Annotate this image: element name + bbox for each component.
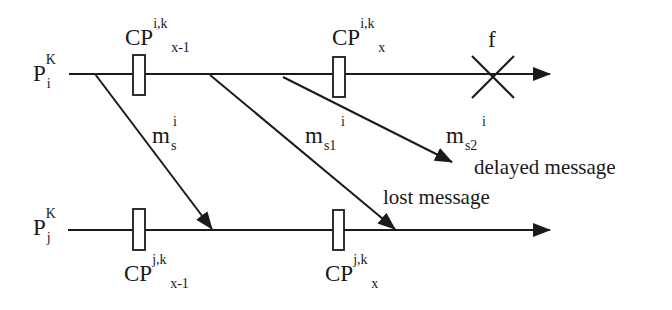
message-label-base: m	[305, 123, 323, 148]
checkpoint-label-scripts: j,kx-1	[152, 262, 189, 285]
failure-label: f	[488, 28, 496, 51]
message-label-scripts: is2	[464, 124, 477, 147]
checkpoint-label-sub: x-1	[153, 40, 190, 55]
checkpoint-label-base: CP	[325, 261, 353, 286]
checkpoint-label-sub: x	[353, 276, 378, 291]
message-label-scripts: is1	[323, 124, 336, 147]
process-label-pi-scripts: Ki	[46, 62, 51, 85]
message-label-base: m	[446, 123, 464, 148]
checkpoint-label-sub: x-1	[152, 276, 189, 291]
checkpoint-label-pi-x-1: CPi,kx-1	[125, 26, 190, 49]
message-arrow-ms1	[210, 75, 395, 229]
checkpoint-label-scripts: j,kx	[353, 262, 378, 285]
checkpoint-label-sup: i,k	[360, 17, 374, 31]
process-label-pi: PKi	[33, 62, 51, 85]
message-label-base: m	[152, 123, 170, 148]
message-label-sub: s2	[464, 138, 477, 153]
lost-message-label: lost message	[383, 187, 490, 208]
checkpoint-box-pi-x-1	[133, 55, 145, 95]
checkpoint-box-pj-x-1	[133, 209, 145, 250]
checkpoint-label-sub: x	[360, 40, 385, 55]
message-label-sup: i	[173, 115, 177, 129]
checkpoint-label-base: CP	[125, 25, 153, 50]
checkpoint-label-sup: j,k	[152, 253, 166, 267]
process-label-pj-base: P	[33, 215, 46, 240]
process-label-pj-sup: K	[46, 207, 56, 221]
message-label-scripts: is	[170, 124, 176, 147]
message-arrow-ms	[95, 74, 212, 229]
checkpoint-label-base: CP	[332, 25, 360, 50]
checkpoint-label-pj-x-1: CPj,kx-1	[124, 262, 189, 285]
checkpoint-box-pj-x	[333, 210, 344, 250]
checkpoint-label-scripts: i,kx-1	[153, 26, 190, 49]
checkpoint-label-pj-x: CPj,kx	[325, 262, 378, 285]
process-label-pj-scripts: Kj	[46, 216, 51, 239]
message-label-ms1: mis1	[305, 124, 336, 147]
checkpoint-label-scripts: i,kx	[360, 26, 385, 49]
message-arrow-ms2	[283, 77, 452, 162]
process-label-pi-sub: i	[46, 76, 51, 91]
process-label-pi-sup: K	[46, 53, 56, 67]
cross-icon	[472, 56, 514, 98]
process-label-pi-base: P	[33, 61, 46, 86]
message-label-sub: s	[170, 138, 176, 153]
checkpoint-label-sup: i,k	[153, 17, 167, 31]
checkpoint-label-sup: j,k	[353, 253, 367, 267]
message-label-sup: i	[482, 115, 486, 129]
process-label-pj: PKj	[33, 216, 51, 239]
message-label-ms2: mis2	[446, 124, 477, 147]
message-label-sup: i	[341, 115, 345, 129]
message-label-ms: mis	[152, 124, 176, 147]
message-label-sub: s1	[323, 138, 336, 153]
delayed-message-label: delayed message	[474, 157, 616, 178]
checkpoint-box-pi-x	[333, 57, 345, 97]
checkpoint-label-pi-x: CPi,kx	[332, 26, 385, 49]
checkpoint-label-base: CP	[124, 261, 152, 286]
process-label-pj-sub: j	[46, 230, 51, 245]
